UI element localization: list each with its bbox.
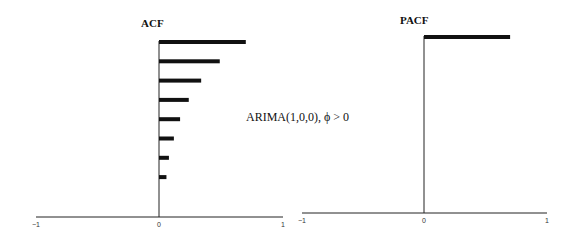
bar-lag-6 [159, 137, 174, 141]
bar-lag-3 [159, 79, 201, 83]
bar-lag-8 [159, 175, 166, 179]
acf-bars [159, 40, 246, 179]
bar-lag-2 [159, 59, 220, 63]
acf-pacf-figure: ACF −1 0 1 ARIMA(1,0,0), ϕ > 0 PACF −1 0… [0, 0, 576, 236]
pacf-tick-neg1: −1 [298, 217, 306, 224]
acf-tick-1: 1 [281, 221, 285, 228]
model-annotation: ARIMA(1,0,0), ϕ > 0 [246, 110, 349, 124]
bar-lag-1 [159, 40, 246, 44]
bar-lag-4 [159, 98, 189, 102]
bar-lag-7 [159, 156, 169, 160]
pacf-bars [424, 35, 510, 39]
bar-lag-1 [424, 35, 510, 39]
bar-lag-5 [159, 117, 180, 121]
acf-tick-neg1: −1 [32, 221, 40, 228]
pacf-tick-1: 1 [545, 217, 549, 224]
pacf-tick-0: 0 [422, 217, 426, 224]
acf-title: ACF [141, 17, 164, 29]
acf-tick-0: 0 [157, 221, 161, 228]
pacf-title: PACF [400, 14, 429, 26]
